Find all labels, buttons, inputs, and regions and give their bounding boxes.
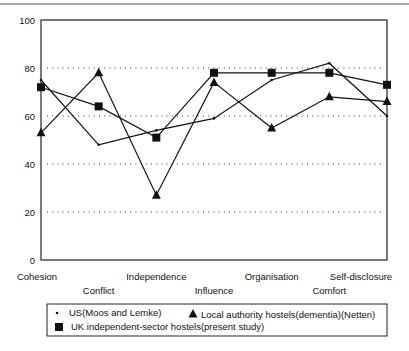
x-category-label: Influence (195, 285, 234, 296)
legend: US(Moos and Lemke)Local authority hostel… (47, 304, 387, 336)
gridlines (47, 68, 383, 212)
square-marker-icon (55, 323, 63, 331)
plot-frame (41, 20, 387, 260)
y-tick-label: 100 (19, 15, 35, 26)
triangle-marker-icon (267, 123, 276, 132)
triangle-marker-icon (94, 68, 103, 77)
x-category-label: Conflict (83, 285, 115, 296)
square-marker-icon (152, 134, 160, 142)
dot-marker-icon (97, 144, 100, 147)
square-marker-icon (95, 102, 103, 110)
y-tick-label: 80 (24, 63, 35, 74)
x-axis-categories: CohesionConflictIndependenceInfluenceOrg… (17, 271, 392, 296)
x-category-label: Cohesion (17, 271, 57, 282)
dot-marker-icon (56, 312, 59, 315)
dot-marker-icon (386, 115, 389, 118)
y-tick-label: 60 (24, 111, 35, 122)
x-category-label: Independence (126, 271, 186, 282)
legend-label-uk-independent: UK independent-sector hostels(present st… (71, 321, 264, 332)
x-category-label: Organisation (245, 271, 299, 282)
dot-marker-icon (270, 79, 273, 82)
triangle-marker-icon (210, 77, 219, 86)
series-triangle (37, 68, 392, 199)
square-marker-icon (37, 83, 45, 91)
y-axis-ticks: 020406080100 (19, 15, 35, 266)
series-line (41, 73, 387, 195)
dot-marker-icon (213, 117, 216, 120)
square-marker-icon (383, 81, 391, 89)
x-category-label: Self-disclosure (330, 271, 392, 282)
y-tick-label: 0 (30, 255, 35, 266)
series-lines (37, 62, 392, 199)
legend-label-us: US(Moos and Lemke) (69, 307, 161, 318)
square-marker-icon (268, 69, 276, 77)
dot-marker-icon (40, 79, 43, 82)
square-marker-icon (210, 69, 218, 77)
triangle-marker-icon (325, 92, 334, 101)
x-category-label: Comfort (312, 285, 346, 296)
triangle-marker-icon (152, 190, 161, 199)
square-marker-icon (325, 69, 333, 77)
legend-label-local-authority: Local authority hostels(dementia)(Netten… (201, 309, 375, 320)
y-tick-label: 40 (24, 159, 35, 170)
line-chart: 020406080100 CohesionConflictIndependenc… (0, 0, 409, 351)
dot-marker-icon (155, 129, 158, 132)
y-tick-label: 20 (24, 207, 35, 218)
dot-marker-icon (328, 62, 331, 65)
